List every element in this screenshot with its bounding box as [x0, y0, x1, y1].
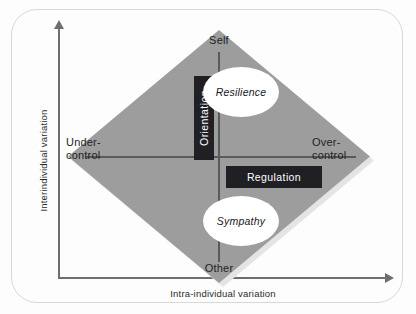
pole-label-other: Other	[188, 262, 250, 274]
x-axis-label: Intra-individual variation	[58, 288, 388, 299]
x-axis-arrow-icon	[385, 273, 394, 283]
construct-ellipse-sympathy: Sympathy	[203, 196, 279, 246]
construct-ellipse-resilience: Resilience	[203, 67, 279, 117]
pole-label-undercontrol-line1: Under-	[66, 136, 101, 148]
pole-label-self: Self	[188, 34, 250, 46]
dimension-box-regulation: Regulation	[226, 166, 322, 188]
y-axis-label: Interindividual variation	[38, 81, 49, 241]
y-axis-arrow-icon	[54, 20, 64, 29]
construct-label-resilience: Resilience	[216, 86, 266, 98]
pole-label-overcontrol-line2: control	[312, 149, 346, 161]
dimension-label-regulation: Regulation	[247, 171, 301, 183]
construct-label-sympathy: Sympathy	[217, 215, 265, 227]
figure-canvas: Interindividual variation Intra-individu…	[0, 0, 416, 314]
pole-label-undercontrol-line2: control	[66, 149, 100, 161]
pole-label-undercontrol: Under- control	[66, 136, 128, 161]
diamond-group: Self Other Under- control Over- control …	[68, 30, 370, 283]
pole-label-overcontrol: Over- control	[312, 136, 376, 161]
y-axis-line	[58, 27, 60, 279]
pole-label-overcontrol-line1: Over-	[312, 136, 341, 148]
